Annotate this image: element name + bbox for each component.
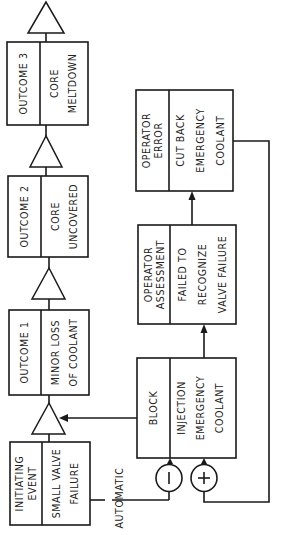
outcome-2-desc-line-1: CORE [49, 202, 61, 231]
automatic-label: AUTOMATIC [113, 468, 125, 529]
outcome-3-desc-line-1: CORE [48, 69, 60, 98]
top-triangle-node [28, 2, 64, 42]
outcome-1-desc-line-2: OF COOLANT [67, 318, 79, 386]
triangle-icon [30, 136, 62, 167]
outcome-2-label: OUTCOME 2 [18, 185, 30, 247]
triangle-icon [32, 268, 65, 299]
operator-error-label-line-1: OPERATOR [140, 113, 152, 168]
diagram-canvas: OUTCOME 3 CORE MELTDOWN OUTCOME 2 CORE U… [0, 0, 286, 535]
arrow-block-to-branch [59, 414, 137, 422]
outcome-3-desc-line-2: MELTDOWN [66, 54, 78, 114]
triangle-icon [28, 2, 64, 33]
operator-assessment-desc-line-1: FAILED TO [176, 248, 188, 302]
operator-assessment-box: OPERATOR ASSESSMENT FAILED TO RECOGNIZE … [138, 225, 236, 324]
arrow-block-to-assessment [201, 324, 208, 358]
arrowhead-icon [167, 458, 173, 464]
arrowhead-icon [201, 458, 207, 464]
operator-error-box: OPERATOR ERROR CUT BACK EMERGENCY COOLAN… [136, 90, 233, 191]
operator-error-label-line-2: ERROR [152, 122, 164, 158]
arrowhead-icon [189, 191, 196, 200]
outcome-2-desc-line-2: UNCOVERED [67, 184, 79, 249]
outcome-1-label: OUTCOME 1 [18, 321, 30, 383]
outcome-3-label: OUTCOME 3 [17, 52, 29, 114]
event-tree-diagram: OUTCOME 3 CORE MELTDOWN OUTCOME 2 CORE U… [0, 0, 286, 535]
initiating-event-box: INITIATING EVENT SMALL VALVE FAILURE [10, 442, 90, 525]
initiating-event-desc-line-2: FAILURE [68, 462, 80, 504]
operator-assessment-label-line-1: OPERATOR [142, 247, 154, 302]
arrow-assessment-to-error [189, 191, 196, 225]
block-injection-box: BLOCK INJECTION EMERGENCY COOLANT [137, 358, 236, 458]
branch-triangle-2-3 [30, 125, 62, 176]
branch-triangle-1-2 [32, 257, 65, 310]
operator-error-desc-line-3: COOLANT [214, 115, 226, 165]
operator-assessment-desc-line-2: RECOGNIZE [196, 244, 208, 306]
operator-error-desc-line-1: CUT BACK [174, 114, 186, 167]
branch-triangle-initiating [32, 395, 65, 442]
operator-assessment-desc-line-3: VALVE FAILURE [216, 236, 228, 313]
outcome-3-box: OUTCOME 3 CORE MELTDOWN [7, 42, 88, 125]
block-injection-desc-line-1: INJECTION [175, 381, 187, 435]
outcome-1-box: OUTCOME 1 MINOR LOSS OF COOLANT [9, 310, 89, 395]
block-injection-desc-line-2: EMERGENCY [194, 376, 206, 441]
arrowhead-icon [201, 324, 208, 333]
outcome-1-desc-line-1: MINOR LOSS [49, 320, 61, 385]
block-injection-label: BLOCK [147, 390, 159, 425]
operator-assessment-label-line-2: ASSESSMENT [154, 240, 166, 309]
triangle-icon [32, 403, 65, 434]
initiating-event-label-line-2: EVENT [26, 466, 38, 500]
operator-error-desc-line-2: EMERGENCY [194, 108, 206, 173]
initiating-event-desc-line-1: SMALL VALVE [50, 449, 62, 519]
outcome-2-box: OUTCOME 2 CORE UNCOVERED [8, 176, 88, 257]
arrowhead-icon [59, 414, 68, 422]
block-injection-desc-line-3: COOLANT [213, 383, 225, 433]
initiating-event-label-line-1: INITIATING [13, 456, 25, 512]
